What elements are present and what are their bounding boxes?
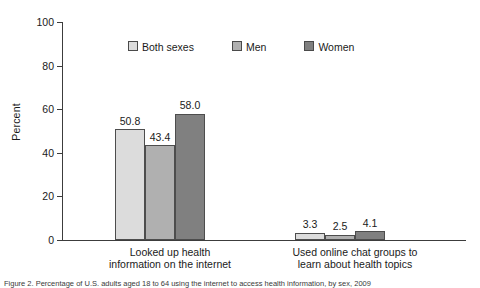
x-axis-line bbox=[62, 240, 466, 241]
y-tick-label-0: 0 bbox=[26, 235, 54, 246]
y-tick-label-100: 100 bbox=[26, 17, 54, 28]
bar-rect-1-0 bbox=[295, 233, 325, 240]
y-tick-label-40: 40 bbox=[26, 148, 54, 159]
bar-0-0: 50.8 bbox=[115, 22, 145, 240]
bar-rect-1-1 bbox=[325, 235, 355, 240]
bar-1-0: 3.3 bbox=[295, 22, 325, 240]
bar-value-label-0-2: 58.0 bbox=[180, 100, 200, 111]
category-label-1: Used online chat groups to learn about h… bbox=[262, 246, 448, 270]
bar-rect-0-0 bbox=[115, 129, 145, 240]
bar-0-1: 43.4 bbox=[145, 22, 175, 240]
bar-1-2: 4.1 bbox=[355, 22, 385, 240]
bar-value-label-0-0: 50.8 bbox=[120, 116, 140, 127]
figure-caption: Figure 2. Percentage of U.S. adults aged… bbox=[4, 279, 480, 288]
bar-1-1: 2.5 bbox=[325, 22, 355, 240]
bar-value-label-0-1: 43.4 bbox=[150, 132, 170, 143]
bar-rect-1-2 bbox=[355, 231, 385, 240]
bar-value-label-1-0: 3.3 bbox=[303, 219, 318, 230]
bar-rect-0-1 bbox=[145, 145, 175, 240]
bar-value-label-1-1: 2.5 bbox=[333, 221, 348, 232]
bar-rect-0-2 bbox=[175, 114, 205, 240]
y-tick-label-20: 20 bbox=[26, 191, 54, 202]
y-axis-title: Percent bbox=[10, 92, 22, 152]
bar-0-2: 58.0 bbox=[175, 22, 205, 240]
category-label-0: Looked up health information on the inte… bbox=[82, 246, 258, 270]
bar-group-1-bars: 3.32.54.1 bbox=[295, 22, 385, 240]
y-tick-label-60: 60 bbox=[26, 104, 54, 115]
y-tick-label-80: 80 bbox=[26, 61, 54, 72]
bar-value-label-1-2: 4.1 bbox=[363, 218, 378, 229]
plot-area: 50.843.458.0 3.32.54.1 bbox=[62, 22, 466, 240]
bar-group-0-bars: 50.843.458.0 bbox=[115, 22, 205, 240]
